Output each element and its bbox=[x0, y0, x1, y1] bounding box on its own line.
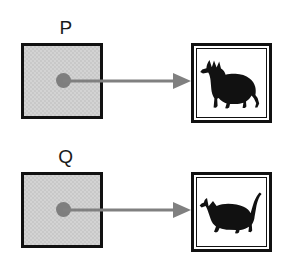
node-label-p: P bbox=[48, 18, 84, 37]
diagram-canvas: P Q bbox=[0, 0, 292, 271]
arrow-q-to-cat bbox=[63, 200, 191, 220]
target-box-dog bbox=[191, 43, 272, 123]
dog-silhouette-icon bbox=[199, 51, 265, 115]
target-box-cat bbox=[191, 172, 272, 252]
target-box-inner-border bbox=[196, 177, 267, 247]
cat-silhouette-icon bbox=[199, 181, 265, 243]
arrow-p-to-dog bbox=[63, 71, 191, 91]
diagram-row-q: Q bbox=[0, 147, 292, 267]
node-label-q: Q bbox=[48, 147, 84, 166]
diagram-row-p: P bbox=[0, 18, 292, 138]
target-box-inner-border bbox=[196, 48, 267, 118]
